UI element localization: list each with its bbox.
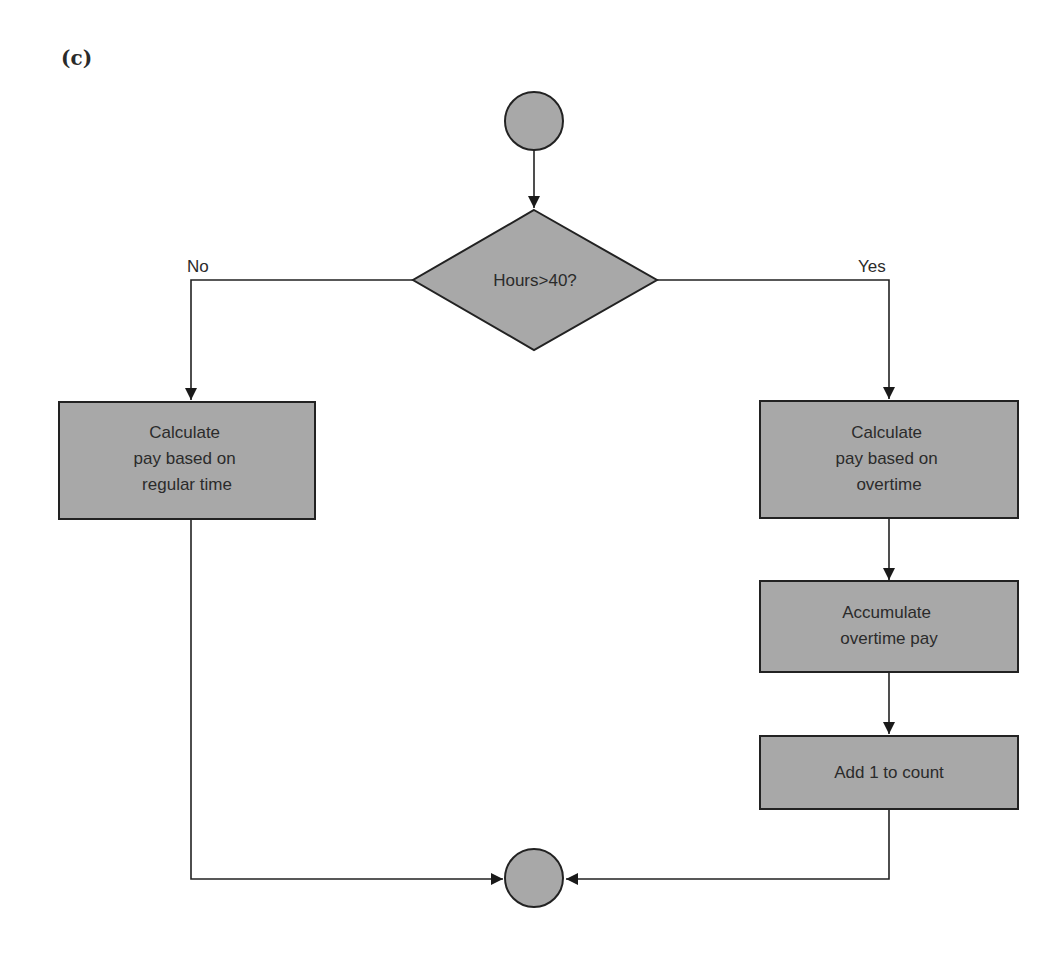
edge-count-to-end xyxy=(566,809,889,879)
label-line: regular time xyxy=(142,475,232,494)
flowchart: Hours>40? No Yes Calculate pay based on … xyxy=(0,0,1062,965)
start-connector xyxy=(505,92,563,150)
yes-label: Yes xyxy=(858,257,886,276)
label-line: pay based on xyxy=(134,449,236,468)
label-line: pay based on xyxy=(836,449,938,468)
label-line: Calculate xyxy=(851,423,922,442)
label-line: Calculate xyxy=(149,423,220,442)
process-regular-time-label: Calculate pay based on regular time xyxy=(134,423,241,494)
no-label: No xyxy=(187,257,209,276)
end-connector xyxy=(505,849,563,907)
process-add-count-label: Add 1 to count xyxy=(834,763,944,782)
label-line: Accumulate xyxy=(842,603,931,622)
decision-label: Hours>40? xyxy=(493,271,577,290)
edge-regular-to-end xyxy=(191,519,503,879)
label-line: overtime xyxy=(856,475,921,494)
edge-yes xyxy=(657,280,889,399)
label-line: overtime pay xyxy=(840,629,938,648)
edge-no xyxy=(191,280,413,400)
process-accumulate xyxy=(760,581,1018,672)
